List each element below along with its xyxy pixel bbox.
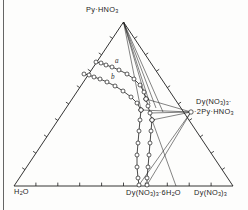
tick-right xyxy=(134,37,137,39)
tie-lines xyxy=(124,22,192,186)
data-point-a-6 xyxy=(132,77,136,81)
data-point-e-3 xyxy=(147,153,151,157)
invariant-point-1 xyxy=(139,108,143,112)
tick-left xyxy=(55,119,58,121)
solubility-curves xyxy=(84,62,152,185)
tick-right xyxy=(222,168,225,170)
data-point-a-3 xyxy=(110,65,114,69)
hydrate-label-text: Dy(NO3)3·6H2O xyxy=(126,188,181,197)
data-point-a-2 xyxy=(104,63,108,67)
data-point-e-6 xyxy=(145,183,149,187)
tie-line-10 xyxy=(147,112,191,185)
curve-tag-a: a xyxy=(115,57,119,65)
ternary-phase-diagram-figure: Py·HNO3 H2O Dy(NO3)3·6H2O Dy(NO3)3 Dy(NO… xyxy=(0,0,248,210)
tick-left xyxy=(88,69,91,71)
data-point-a-1 xyxy=(99,61,103,65)
tick-left xyxy=(77,86,80,88)
data-point-a-0 xyxy=(94,60,98,64)
double-salt-line2: ·2Py·HNO3 xyxy=(194,108,233,118)
data-point-e-1 xyxy=(149,129,153,133)
invariant-point-2 xyxy=(150,118,154,122)
tick-left xyxy=(22,168,25,170)
data-point-b-2 xyxy=(92,75,96,79)
data-point-e-4 xyxy=(146,165,150,169)
data-point-markers xyxy=(82,60,193,187)
data-point-b-6 xyxy=(121,89,125,93)
data-point-b-8 xyxy=(135,101,139,105)
compound-label-double-salt: Dy(NO3)3· ·2Py·HNO3 xyxy=(196,98,233,117)
left-label-text: H2O xyxy=(14,187,29,196)
data-point-a-4 xyxy=(117,68,121,72)
tick-right xyxy=(178,102,181,104)
tie-line-8 xyxy=(139,112,191,185)
curve-tag-b: b xyxy=(111,73,115,81)
double-salt-line1: Dy(NO3)3· xyxy=(196,97,232,106)
data-point-c-2 xyxy=(148,111,152,115)
data-point-a-5 xyxy=(125,72,129,76)
tick-right xyxy=(167,86,170,88)
tie-line-0 xyxy=(124,22,147,99)
data-point-b-5 xyxy=(113,84,117,88)
tick-left xyxy=(44,135,47,137)
tick-right xyxy=(200,135,203,137)
compound-label-hydrate: Dy(NO3)3·6H2O xyxy=(126,189,181,199)
tick-right xyxy=(145,53,148,55)
tick-left xyxy=(110,37,113,39)
tick-left xyxy=(99,53,102,55)
data-point-d-4 xyxy=(135,153,139,157)
data-point-d-7 xyxy=(137,183,141,187)
tie-line-5 xyxy=(146,99,191,112)
invariant-point-0 xyxy=(144,97,148,101)
invariant-point-3 xyxy=(189,110,193,114)
data-point-e-5 xyxy=(145,176,149,180)
data-point-b-1 xyxy=(87,73,91,77)
data-point-e-2 xyxy=(148,141,152,145)
tie-line-11 xyxy=(152,120,176,186)
tick-left xyxy=(33,151,36,153)
tick-right xyxy=(211,151,214,153)
data-point-d-2 xyxy=(137,129,141,133)
vertex-label-right: Dy(NO3)3 xyxy=(194,189,227,199)
tick-left xyxy=(66,102,69,104)
data-point-c-1 xyxy=(146,104,150,108)
data-point-b-0 xyxy=(82,72,86,76)
vertex-label-left: H2O xyxy=(14,188,29,198)
apex-label-text: Py·HNO3 xyxy=(86,5,118,14)
tie-line-9 xyxy=(152,112,191,120)
data-point-d-5 xyxy=(135,165,139,169)
data-point-d-1 xyxy=(138,118,142,122)
tick-right xyxy=(156,69,159,71)
data-point-d-3 xyxy=(136,141,140,145)
tick-right xyxy=(189,119,192,121)
data-point-b-7 xyxy=(129,95,133,99)
vertex-label-apex: Py·HNO3 xyxy=(86,6,118,16)
data-point-b-3 xyxy=(98,77,102,81)
data-point-b-4 xyxy=(105,80,109,84)
curve-c xyxy=(146,99,152,120)
data-point-d-6 xyxy=(136,176,140,180)
data-point-a-8 xyxy=(142,90,146,94)
right-vertex-label-text: Dy(NO3)3 xyxy=(194,188,227,197)
data-point-a-7 xyxy=(138,83,142,87)
tie-line-6 xyxy=(150,112,191,113)
